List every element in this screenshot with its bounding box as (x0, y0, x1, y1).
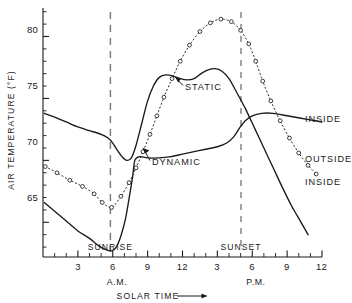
outside-data-point-29 (306, 163, 310, 167)
outside-data-point-26 (278, 119, 282, 123)
static-curve-label: STATIC (185, 82, 222, 92)
x-tick-label-am-6: 6 (110, 261, 115, 272)
outside-data-point-25 (269, 99, 273, 103)
outside-data-point-4 (92, 192, 96, 196)
sunset-label: SUNSET (221, 242, 262, 252)
y-tick-label-70: 70 (27, 136, 38, 147)
outside-data-point-21 (239, 28, 243, 32)
outside-data-point-15 (178, 59, 182, 63)
outside-data-point-0 (43, 165, 47, 169)
inside-label-bottom: INSIDE (305, 177, 341, 187)
outside-data-point-3 (81, 184, 85, 188)
outside-data-point-16 (188, 43, 192, 47)
x-tick-label-am-9: 9 (145, 261, 150, 272)
x-tick-label-pm-12: 12 (316, 261, 327, 272)
dynamic-curve-label: DYNAMIC (152, 157, 201, 167)
pm-period-label: P.M. (246, 277, 265, 287)
outside-data-point-6 (110, 206, 114, 210)
outside-data-point-22 (247, 42, 251, 46)
outside-data-point-27 (288, 136, 292, 140)
x-tick-label-pm-6: 6 (249, 261, 254, 272)
outside-data-point-5 (100, 201, 104, 205)
x-tick-label-pm-9: 9 (284, 261, 289, 272)
inside-label-top: INSIDE (305, 114, 341, 124)
outside-data-point-8 (127, 181, 131, 185)
outside-data-point-20 (229, 20, 233, 24)
outside-data-point-19 (219, 17, 223, 21)
y-tick-label-75: 75 (27, 80, 38, 91)
outside-data-point-28 (297, 151, 301, 155)
outside-data-point-7 (119, 194, 123, 198)
outside-data-point-14 (170, 77, 174, 81)
x-tick-label-pm-3: 3 (214, 261, 219, 272)
outside-data-point-13 (162, 95, 166, 99)
outside-data-point-9 (134, 166, 138, 170)
y-tick-label-80: 80 (27, 24, 38, 35)
outside-data-point-17 (198, 30, 202, 34)
outside-data-point-18 (209, 21, 213, 25)
outside-data-point-12 (155, 114, 159, 118)
outside-data-point-24 (261, 79, 265, 83)
air-temperature-chart: 80 75 70 65 AIR TEMPERATURE (°F) 3 6 9 1… (0, 0, 352, 303)
x-axis-title: SOLAR TIME (117, 291, 180, 301)
x-tick-label-am-12: 12 (177, 261, 188, 272)
y-tick-label-65: 65 (27, 192, 38, 203)
outside-data-point-23 (254, 59, 258, 63)
y-axis-title: AIR TEMPERATURE (°F) (6, 70, 16, 190)
outside-data-point-2 (68, 178, 72, 182)
outside-label: OUTSIDE (305, 154, 352, 164)
outside-data-point-30 (314, 172, 318, 176)
x-tick-label-am-3: 3 (75, 261, 80, 272)
outside-data-point-1 (55, 171, 59, 175)
outside-data-point-11 (148, 132, 152, 136)
am-period-label: A.M. (107, 277, 127, 287)
